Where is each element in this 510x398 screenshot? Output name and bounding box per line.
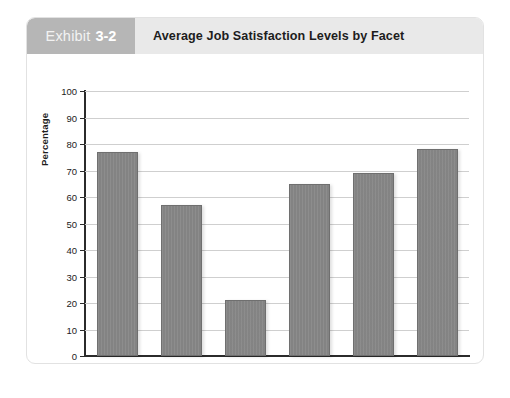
- bar: [353, 173, 394, 356]
- y-tick-label: 40: [66, 245, 77, 256]
- x-tick-label: Work Itself: [94, 363, 140, 364]
- y-tick-label: 100: [61, 86, 77, 97]
- y-tick-label: 10: [66, 324, 77, 335]
- y-tick-label: 60: [66, 192, 77, 203]
- bar: [289, 184, 330, 356]
- bar: [417, 149, 458, 356]
- x-tick-label: Supervision: [284, 363, 335, 364]
- bar: [97, 152, 138, 356]
- exhibit-card: Exhibit 3-2 Average Job Satisfaction Lev…: [26, 17, 484, 364]
- y-axis-title: Percentage: [39, 113, 50, 166]
- exhibit-badge-number: 3-2: [95, 28, 116, 44]
- y-tick-mark: [80, 356, 85, 357]
- y-tick-label: 90: [66, 112, 77, 123]
- bar-series: [85, 91, 469, 356]
- exhibit-header: Exhibit 3-2 Average Job Satisfaction Lev…: [27, 18, 483, 54]
- y-tick-label: 30: [66, 271, 77, 282]
- plot-area: 1009080706050403020100 Work ItselfPayPro…: [85, 91, 469, 356]
- y-tick-label: 50: [66, 218, 77, 229]
- x-tick-label: Overall: [422, 363, 453, 364]
- y-tick-label: 70: [66, 165, 77, 176]
- bar: [161, 205, 202, 356]
- y-tick-label: 0: [72, 351, 77, 362]
- x-tick-label: Pay: [173, 363, 190, 364]
- y-tick-label: 80: [66, 139, 77, 150]
- bar: [225, 300, 266, 356]
- x-tick-label: Coworkers: [350, 363, 396, 364]
- exhibit-badge-word: Exhibit: [46, 28, 91, 44]
- chart-plot-region: Percentage 1009080706050403020100 Work I…: [27, 54, 483, 363]
- exhibit-title: Average Job Satisfaction Levels by Facet: [135, 18, 483, 54]
- x-tick-label: Promotion: [223, 363, 267, 364]
- exhibit-badge: Exhibit 3-2: [27, 18, 135, 54]
- y-tick-label: 20: [66, 298, 77, 309]
